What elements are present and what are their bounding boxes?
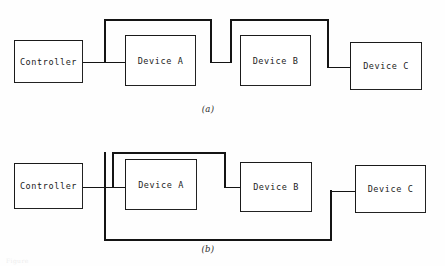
box-label: Controller — [20, 180, 77, 191]
wire-a-devicea-to-deviceb — [210, 62, 232, 64]
wire-a-deviceb-to-devicec — [327, 67, 352, 69]
wire-b-controller-to-devicea — [83, 187, 127, 189]
wire-b-devicec-stub — [330, 191, 357, 193]
box-a-device-c[interactable]: Device C — [350, 42, 422, 90]
wire-a-loop1-top-rail — [104, 19, 212, 21]
box-b-controller[interactable]: Controller — [14, 163, 83, 209]
box-label: Device B — [253, 55, 299, 66]
caption-a: (a) — [178, 104, 238, 114]
figure-canvas: Controller Device A Device B Device C (a… — [0, 0, 445, 266]
box-a-device-b[interactable]: Device B — [240, 35, 311, 86]
box-b-device-c[interactable]: Device C — [355, 165, 426, 213]
box-label: Device A — [138, 55, 184, 66]
wire-b-bus-spine — [104, 152, 106, 241]
box-a-controller[interactable]: Controller — [14, 40, 83, 83]
box-b-device-a[interactable]: Device A — [125, 159, 197, 210]
box-label: Controller — [20, 56, 77, 67]
box-label: Device C — [363, 60, 409, 71]
box-label: Device B — [253, 181, 299, 192]
wire-a-loop2-right-riser — [327, 19, 329, 68]
box-label: Device A — [138, 179, 184, 190]
box-label: Device C — [368, 183, 414, 194]
wire-a-loop1-left-riser — [104, 19, 106, 63]
wire-a-loop2-top-rail — [230, 19, 329, 21]
wire-b-inner-riser — [112, 152, 114, 188]
wire-b-top-rail-drop — [224, 152, 226, 188]
wire-a-loop1-right-riser — [210, 19, 212, 63]
box-b-device-b[interactable]: Device B — [240, 162, 312, 212]
wire-b-bottom-return — [104, 239, 332, 241]
wire-a-loop2-left-riser — [230, 19, 232, 63]
box-a-device-a[interactable]: Device A — [125, 35, 196, 86]
caption-b: (b) — [178, 244, 238, 254]
figure-footnote: Figure — [6, 257, 29, 264]
wire-b-devicec-drop — [330, 190, 332, 239]
wire-b-top-rail — [112, 152, 226, 154]
